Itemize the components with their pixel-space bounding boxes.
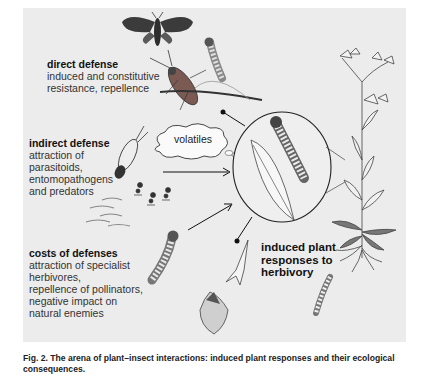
ants-icon [134,183,171,206]
direct-defense-title: direct defense [47,58,160,70]
parasitoid-wasp-icon [113,126,148,180]
indirect-defense-body: attraction of parasitoids, entomopathoge… [29,149,113,197]
moth-icon [122,12,193,46]
costs-of-defenses-body: attraction of specialist herbivores, rep… [29,259,143,319]
induced-plant-responses-label: induced plant responses to herbivory [261,241,336,279]
costs-of-defenses-label: costs of defenses attraction of speciali… [29,247,143,319]
costs-of-defenses-title: costs of defenses [29,247,143,259]
nematodes-icon [86,198,130,226]
magnified-caterpillar-on-leaf-icon [233,112,345,222]
indirect-defense-title: indirect defense [29,137,113,149]
plant-icon [332,48,396,272]
volatiles-label: volatiles [158,133,228,145]
larva-in-soil-icon [316,277,330,313]
caterpillar-icon [152,231,179,281]
damaged-flower-icon [200,240,248,334]
direct-defense-body: induced and constitutive resistance, rep… [47,70,160,94]
direct-defense-label: direct defense induced and constitutive … [47,58,160,94]
figure-caption: Fig. 2. The arena of plant–insect intera… [23,353,403,375]
indirect-defense-label: indirect defense attraction of parasitoi… [29,137,113,197]
